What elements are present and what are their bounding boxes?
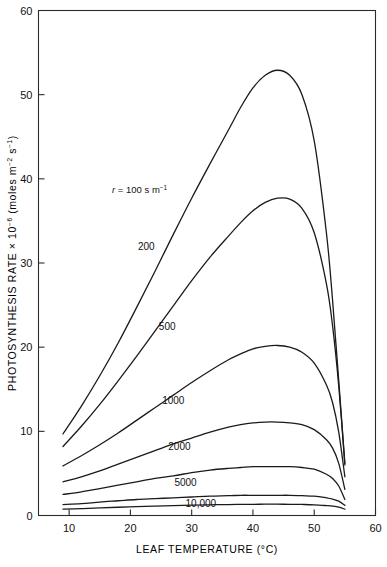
chart-canvas: 102030405060 0102030405060 2005001000200… (0, 0, 387, 567)
photosynthesis-rate-chart: 102030405060 0102030405060 2005001000200… (0, 0, 387, 567)
y-axis-tick-labels: 0102030405060 (20, 5, 32, 522)
curve-r-100 (63, 70, 345, 463)
y-tick-label-30: 30 (20, 257, 32, 269)
annotation-exponent: −1 (160, 184, 168, 191)
x-tick-label-60: 60 (369, 522, 381, 534)
y-axis-title-base: 10 (6, 226, 18, 239)
y-axis-title-main: PHOTOSYNTHESIS RATE (6, 253, 18, 391)
curve-label-200: 200 (138, 241, 155, 252)
x-axis-ticks (69, 510, 375, 516)
y-axis-title-times: × (6, 242, 18, 249)
y-tick-label-40: 40 (20, 173, 32, 185)
data-curves (63, 70, 345, 509)
x-tick-label-50: 50 (308, 522, 320, 534)
svg-text:PHOTOSYNTHESIS RATE × 10−6 (mo: PHOTOSYNTHESIS RATE × 10−6 (moles m−2 s−… (6, 135, 18, 391)
resistance-annotation: r = 100 s m−1 (112, 184, 168, 196)
annotation-equals: = (115, 184, 126, 195)
x-axis-tick-labels: 102030405060 (63, 522, 382, 534)
curve-label-500: 500 (159, 321, 176, 332)
y-tick-label-20: 20 (20, 341, 32, 353)
x-tick-label-40: 40 (247, 522, 259, 534)
curve-r-1000 (63, 422, 345, 489)
y-axis-title-exponent: −6 (6, 217, 13, 226)
y-tick-label-10: 10 (20, 425, 32, 437)
y-axis-title-units-exp2: −1 (6, 139, 13, 148)
x-tick-label-20: 20 (124, 522, 136, 534)
curve-label-5000: 5000 (174, 477, 197, 488)
svg-text:r = 100 s m−1: r = 100 s m−1 (112, 184, 168, 196)
y-axis-ticks (39, 95, 45, 432)
y-tick-label-60: 60 (20, 5, 32, 17)
y-axis-title-units-close: ) (6, 135, 18, 139)
y-axis-title-units-open: (moles m (6, 166, 18, 214)
x-tick-label-30: 30 (186, 522, 198, 534)
y-axis-title-units-exp1: −2 (6, 157, 13, 166)
annotation-value: 100 s m (126, 184, 160, 195)
curve-r-2000 (63, 467, 345, 500)
curve-label-2000: 2000 (168, 441, 191, 452)
y-axis-title: PHOTOSYNTHESIS RATE × 10−6 (moles m−2 s−… (6, 135, 18, 391)
x-tick-label-10: 10 (63, 522, 75, 534)
y-tick-label-50: 50 (20, 89, 32, 101)
plot-frame (39, 11, 376, 516)
y-axis-title-units-mid: s (6, 148, 18, 157)
x-axis-title: LEAF TEMPERATURE (°C) (136, 543, 278, 555)
curve-label-10000: 10,000 (186, 498, 217, 509)
curve-label-1000: 1000 (162, 395, 185, 406)
y-tick-label-0: 0 (26, 510, 32, 522)
